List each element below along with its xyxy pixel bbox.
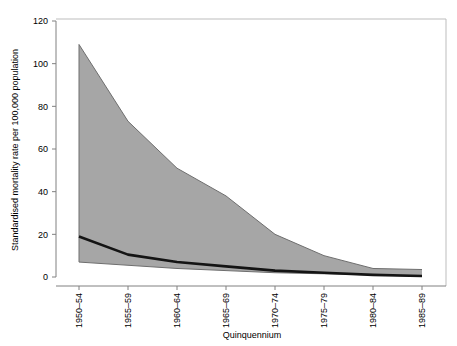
x-axis-tick-label: 1950–54 — [74, 293, 84, 328]
chart-container: 020406080100120 1950–541955–591960–64196… — [0, 0, 457, 346]
y-axis-tick-label: 120 — [33, 16, 48, 26]
y-axis-tick-label: 0 — [43, 272, 48, 282]
mortality-rate-chart: 020406080100120 1950–541955–591960–64196… — [0, 0, 457, 346]
x-axis-tick-label: 1955–59 — [123, 293, 133, 328]
x-axis-tick-label: 1960–64 — [172, 293, 182, 328]
y-axis-title: Standardised mortality rate per 100,000 … — [10, 49, 20, 251]
x-axis-tick-label: 1980–84 — [368, 293, 378, 328]
x-axis-tick-label: 1965–69 — [221, 293, 231, 328]
x-axis-tick-label: 1970–74 — [270, 293, 280, 328]
y-axis-tick-label: 20 — [38, 230, 48, 240]
x-axis-tick-label: 1975–79 — [319, 293, 329, 328]
x-axis-tick-label: 1985–89 — [417, 293, 427, 328]
y-axis-tick-label: 80 — [38, 102, 48, 112]
y-axis-tick-label: 40 — [38, 187, 48, 197]
y-axis-tick-label: 60 — [38, 144, 48, 154]
x-axis-title: Quinquennium — [223, 330, 282, 340]
y-axis-tick-label: 100 — [33, 59, 48, 69]
